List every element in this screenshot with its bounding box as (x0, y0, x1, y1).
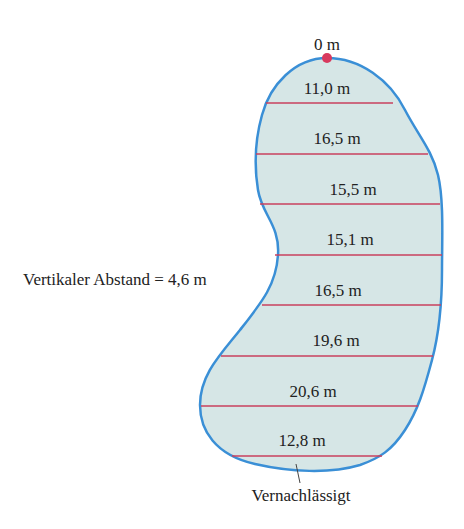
width-label: 15,5 m (329, 181, 376, 198)
width-label: 12,8 m (278, 432, 325, 449)
vertical-spacing-label: Vertikaler Abstand = 4,6 m (23, 271, 207, 288)
width-label: 15,1 m (326, 231, 373, 248)
width-label: 20,6 m (289, 383, 336, 400)
neglected-label: Vernachlässigt (251, 487, 350, 504)
pond-diagram: 0 m 11,0 m 16,5 m 15,5 m 15,1 m 16,5 m 1… (0, 0, 464, 529)
pond-outline (200, 58, 442, 471)
top-point-marker (322, 53, 332, 63)
pond-shape-svg (0, 0, 464, 529)
width-label: 11,0 m (304, 80, 351, 97)
width-label: 16,5 m (314, 282, 361, 299)
width-label: 16,5 m (313, 130, 360, 147)
top-label: 0 m (314, 36, 340, 53)
width-label: 19,6 m (312, 332, 359, 349)
